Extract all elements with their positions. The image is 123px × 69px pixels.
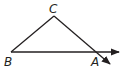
label-b: B	[4, 55, 12, 69]
segment-bc	[11, 16, 54, 52]
triangle-diagram: C B A	[0, 0, 123, 69]
ray-ca	[54, 16, 110, 64]
label-c: C	[49, 2, 58, 16]
label-a: A	[90, 55, 99, 69]
